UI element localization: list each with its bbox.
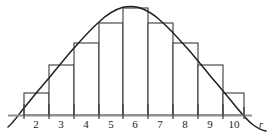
x-tick-label-5: 5 — [108, 118, 114, 130]
x-tick-label-9: 9 — [207, 118, 213, 130]
x-tick-label-8: 8 — [182, 118, 188, 130]
bars-group — [24, 8, 244, 115]
bar-4 — [74, 43, 99, 115]
bar-7 — [148, 23, 173, 115]
bar-8 — [173, 43, 198, 115]
bar-6 — [123, 8, 148, 115]
bar-5 — [99, 23, 123, 115]
x-tick-label-3: 3 — [58, 118, 64, 130]
x-tick-label-2: 2 — [33, 118, 39, 130]
x-axis-variable-label: r — [259, 119, 263, 131]
x-tick-label-7: 7 — [157, 118, 163, 130]
x-tick-label-6: 6 — [132, 118, 138, 130]
bar-9 — [198, 65, 223, 115]
histogram-figure: 2 3 4 5 6 7 8 9 10 r — [0, 0, 274, 138]
x-tick-label-10: 10 — [229, 118, 240, 130]
x-tick-label-4: 4 — [83, 118, 89, 130]
